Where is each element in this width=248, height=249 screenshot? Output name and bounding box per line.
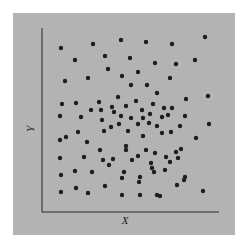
data-point xyxy=(176,156,180,160)
data-point xyxy=(174,62,178,66)
data-point xyxy=(207,122,211,126)
data-point xyxy=(164,155,168,159)
data-point xyxy=(144,40,148,44)
data-point xyxy=(60,102,64,106)
data-point xyxy=(59,173,63,177)
data-point xyxy=(86,76,90,80)
data-point xyxy=(102,129,106,133)
data-point xyxy=(59,190,63,194)
data-point xyxy=(140,108,144,112)
data-point xyxy=(168,160,172,164)
data-point xyxy=(170,106,174,110)
data-point xyxy=(153,151,157,155)
data-point xyxy=(136,122,140,126)
data-point xyxy=(86,191,90,195)
data-point xyxy=(63,79,67,83)
data-point xyxy=(64,135,68,139)
data-point xyxy=(119,114,123,118)
data-point xyxy=(97,100,101,104)
data-point xyxy=(90,170,94,174)
data-point xyxy=(59,46,63,50)
data-point xyxy=(194,136,198,140)
data-point xyxy=(155,91,159,95)
data-point xyxy=(145,83,149,87)
data-point xyxy=(150,166,154,170)
data-point xyxy=(129,83,133,87)
data-point xyxy=(160,115,164,119)
data-point xyxy=(183,114,187,118)
data-point xyxy=(89,108,93,112)
data-point xyxy=(193,58,197,62)
data-point xyxy=(112,110,116,114)
data-point xyxy=(107,163,111,167)
data-point xyxy=(136,154,140,158)
data-point xyxy=(120,176,124,180)
data-point xyxy=(162,106,166,110)
data-point xyxy=(153,61,157,65)
data-point xyxy=(73,169,77,173)
data-point xyxy=(101,158,105,162)
data-point xyxy=(76,130,80,134)
data-point xyxy=(74,186,78,190)
data-point xyxy=(137,180,141,184)
data-point xyxy=(166,113,170,117)
scatter-plot: X Y xyxy=(0,0,248,249)
data-point xyxy=(103,54,107,58)
data-point xyxy=(73,58,77,62)
data-point xyxy=(152,170,156,174)
data-point xyxy=(58,114,62,118)
data-point xyxy=(99,108,103,112)
data-point xyxy=(182,178,186,182)
data-point xyxy=(141,134,145,138)
data-point xyxy=(168,76,172,80)
data-point xyxy=(110,105,114,109)
data-point xyxy=(124,104,128,108)
data-point xyxy=(178,124,182,128)
data-point xyxy=(136,70,140,74)
data-point xyxy=(144,148,148,152)
data-point xyxy=(174,150,178,154)
data-point xyxy=(58,138,62,142)
data-point xyxy=(126,129,130,133)
data-point xyxy=(98,148,102,152)
data-point xyxy=(106,67,110,71)
data-point xyxy=(129,116,133,120)
data-point xyxy=(122,170,126,174)
data-point xyxy=(147,121,151,125)
data-point xyxy=(151,102,155,106)
data-point xyxy=(158,194,162,198)
data-point xyxy=(134,99,138,103)
data-point xyxy=(179,147,183,151)
data-point xyxy=(82,155,86,159)
data-point xyxy=(169,130,173,134)
data-point xyxy=(111,157,115,161)
data-point xyxy=(100,118,104,122)
data-point xyxy=(119,38,123,42)
data-point xyxy=(124,144,128,148)
data-point xyxy=(163,168,167,172)
data-point xyxy=(175,183,179,187)
data-point xyxy=(149,161,153,165)
data-point xyxy=(91,42,95,46)
data-point xyxy=(201,189,205,193)
data-point xyxy=(58,156,62,160)
data-point xyxy=(206,94,210,98)
data-point xyxy=(128,56,132,60)
data-point xyxy=(85,140,89,144)
data-points xyxy=(58,35,211,198)
data-point xyxy=(120,74,124,78)
y-axis-label: Y xyxy=(24,124,36,132)
data-point xyxy=(117,122,121,126)
data-point xyxy=(79,115,83,119)
data-point xyxy=(138,193,142,197)
data-point xyxy=(148,112,152,116)
data-point xyxy=(103,184,107,188)
data-point xyxy=(124,148,128,152)
data-point xyxy=(116,95,120,99)
data-point xyxy=(155,124,159,128)
data-point xyxy=(160,131,164,135)
data-point xyxy=(170,42,174,46)
data-point xyxy=(184,97,188,101)
data-point xyxy=(120,193,124,197)
data-point xyxy=(109,125,113,129)
